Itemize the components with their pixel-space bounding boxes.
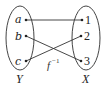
element-2: 2: [84, 29, 90, 43]
set-x-label: X: [81, 72, 90, 86]
element-1: 1: [85, 13, 91, 27]
point-3: [80, 60, 83, 63]
element-c: c: [15, 55, 21, 68]
point-a: [25, 19, 28, 22]
point-2: [80, 35, 83, 38]
mapping-diagram: a b c 1 2 3 Y X f −1: [0, 0, 108, 86]
element-a: a: [15, 13, 22, 26]
set-y-label: Y: [16, 72, 24, 86]
point-c: [25, 60, 28, 63]
function-superscript: −1: [52, 57, 60, 65]
point-b: [25, 35, 28, 38]
point-1: [81, 19, 84, 22]
element-3: 3: [84, 54, 90, 68]
element-b: b: [15, 30, 22, 43]
